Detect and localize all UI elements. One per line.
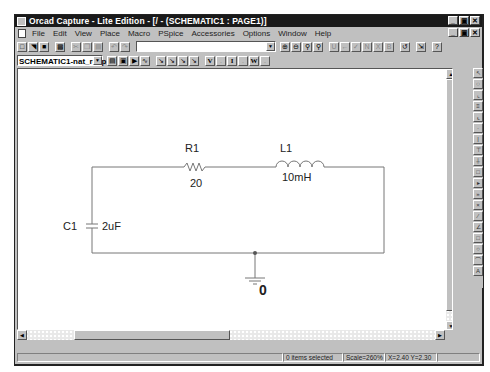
print-icon[interactable]: ▩	[55, 42, 65, 52]
bias-voltage-button[interactable]: V	[205, 56, 215, 66]
draw-tool-palette: ↖ ◌ ⌞ ≡ ⌞ · | ⊤ ⏚ □ ▸ » × ∕ ∠ □ ○ ⌒ A	[473, 68, 483, 288]
ellipse-icon[interactable]: ○	[473, 244, 483, 254]
menu-edit[interactable]: Edit	[53, 29, 67, 38]
polyline-icon[interactable]: ∠	[473, 222, 483, 232]
new-profile-icon[interactable]: ▣	[118, 56, 128, 66]
scroll-down-button[interactable]: ▼	[446, 321, 453, 330]
line-icon[interactable]: ∕	[473, 211, 483, 221]
no-connect-icon[interactable]: ×	[473, 200, 483, 210]
voltage-differential-icon[interactable]: ↘	[167, 56, 177, 66]
current-marker-icon[interactable]: ↘	[178, 56, 188, 66]
select-tool-icon[interactable]: ↖	[473, 68, 483, 78]
menu-file[interactable]: File	[32, 29, 45, 38]
chevron-down-icon[interactable]: ▼	[266, 42, 275, 51]
off-page-connector-icon[interactable]: »	[473, 189, 483, 199]
maximize-button[interactable]: ▣	[459, 16, 469, 25]
simulation-profile-select[interactable]: SCHEMATIC1-nat_resp ▼	[17, 55, 103, 66]
place-part-icon[interactable]: ◌	[473, 79, 483, 89]
view-results-icon[interactable]: ∿	[140, 56, 150, 66]
place-wire-icon[interactable]: ⌞	[473, 90, 483, 100]
arc-icon[interactable]: ⌒	[473, 255, 483, 265]
doc-close-button[interactable]: ✕	[470, 28, 480, 37]
bias-power-sub-icon[interactable]: .	[260, 56, 270, 66]
minimize-button[interactable]: _	[448, 16, 458, 25]
vertical-scroll-thumb[interactable]	[446, 79, 453, 311]
document-icon[interactable]	[18, 29, 26, 38]
paste-icon[interactable]: ▤	[93, 42, 103, 52]
schematic-canvas[interactable]: R1 20 L1 10mH C1 2uF 0 ▲ ▼	[17, 68, 453, 330]
voltage-marker-icon[interactable]: ↘	[156, 56, 166, 66]
bias-current-button[interactable]: I	[227, 56, 237, 66]
bus-entry-icon[interactable]: |	[473, 134, 483, 144]
power-icon[interactable]: ⊤	[473, 145, 483, 155]
c1-value-label: 2uF	[102, 220, 121, 232]
undo-icon[interactable]: ↶	[109, 42, 119, 52]
horizontal-scrollbar[interactable]: ◀ ▶	[17, 330, 445, 340]
selection-count: 0 items selected	[283, 353, 343, 362]
bias-current-sub-icon[interactable]: .	[238, 56, 248, 66]
vertical-scrollbar[interactable]: ▲ ▼	[446, 69, 453, 330]
menu-place[interactable]: Place	[100, 29, 120, 38]
doc-minimize-button[interactable]: _	[448, 28, 458, 37]
project-manager-icon[interactable]: ⇲	[416, 42, 426, 52]
net-alias-icon[interactable]: ≡	[473, 101, 483, 111]
bias-power-button[interactable]: W	[249, 56, 259, 66]
cut-icon[interactable]: ✂	[71, 42, 81, 52]
orcad-window: Orcad Capture - Lite Edition - [/ - (SCH…	[14, 14, 484, 366]
redo-icon[interactable]: ↷	[120, 42, 130, 52]
help-icon[interactable]: ?	[432, 42, 442, 52]
zoom-all-icon[interactable]: ⚲	[313, 42, 323, 52]
scroll-right-button[interactable]: ▶	[435, 330, 445, 340]
part-combo[interactable]: ▼	[136, 41, 276, 52]
menu-window[interactable]: Window	[278, 29, 306, 38]
open-icon[interactable]: ◥	[28, 42, 38, 52]
menu-bar: File Edit View Place Macro PSpice Access…	[15, 27, 482, 39]
hierarchical-pin-icon[interactable]: ▸	[473, 178, 483, 188]
zoom-scale: Scale=260%	[343, 353, 385, 362]
status-extra	[437, 353, 480, 362]
hierarchical-block-icon[interactable]: □	[473, 167, 483, 177]
rectangle-icon[interactable]: □	[473, 233, 483, 243]
place-bus-icon[interactable]: ⌞	[473, 112, 483, 122]
drc-icon[interactable]: ✓	[351, 42, 361, 52]
r1-value-label: 20	[190, 177, 202, 189]
main-toolbar: □ ◥ ■ ▩ ✂ ❐ ▤ ↶ ↷ ▼ ⊕ ⊖ ⚲ ⚲ U ← ✓ N X B …	[15, 40, 482, 53]
scroll-left-button[interactable]: ◀	[17, 330, 27, 340]
edit-profile-icon[interactable]: ▤	[107, 56, 117, 66]
menu-view[interactable]: View	[75, 29, 92, 38]
crossref-icon[interactable]: X	[373, 42, 383, 52]
undo-history-icon[interactable]: ↺	[400, 42, 410, 52]
menu-options[interactable]: Options	[243, 29, 271, 38]
junction-icon[interactable]: ·	[473, 123, 483, 133]
netlist-icon[interactable]: N	[362, 42, 372, 52]
back-annotate-icon[interactable]: ←	[340, 42, 350, 52]
zoom-area-icon[interactable]: ⚲	[302, 42, 312, 52]
zoom-in-icon[interactable]: ⊕	[280, 42, 290, 52]
zoom-out-icon[interactable]: ⊖	[291, 42, 301, 52]
new-icon[interactable]: □	[17, 42, 27, 52]
save-icon[interactable]: ■	[39, 42, 49, 52]
power-marker-icon[interactable]: ↘	[189, 56, 199, 66]
bom-icon[interactable]: B	[384, 42, 394, 52]
title-bar[interactable]: Orcad Capture - Lite Edition - [/ - (SCH…	[15, 15, 482, 27]
status-message	[17, 353, 283, 362]
status-bar: 0 items selected Scale=260% X=2.40 Y=2.3…	[17, 352, 480, 362]
copy-icon[interactable]: ❐	[82, 42, 92, 52]
bias-voltage-sub-icon[interactable]: .	[216, 56, 226, 66]
orcad-app-icon[interactable]	[17, 17, 26, 26]
horizontal-scroll-thumb[interactable]	[74, 330, 230, 340]
doc-maximize-button[interactable]: ▣	[459, 28, 469, 37]
menu-pspice[interactable]: PSpice	[158, 29, 183, 38]
close-button[interactable]: ✕	[470, 16, 480, 25]
text-icon[interactable]: A	[473, 266, 483, 276]
menu-macro[interactable]: Macro	[128, 29, 150, 38]
run-pspice-icon[interactable]: ▶	[129, 56, 139, 66]
schematic-drawing: R1 20 L1 10mH C1 2uF 0	[18, 69, 446, 330]
ground-icon[interactable]: ⏚	[473, 156, 483, 166]
menu-accessories[interactable]: Accessories	[192, 29, 235, 38]
junction-dot	[253, 251, 257, 255]
annotate-icon[interactable]: U	[329, 42, 339, 52]
scroll-up-button[interactable]: ▲	[446, 69, 453, 79]
menu-help[interactable]: Help	[315, 29, 331, 38]
chevron-down-icon[interactable]: ▼	[93, 56, 102, 65]
